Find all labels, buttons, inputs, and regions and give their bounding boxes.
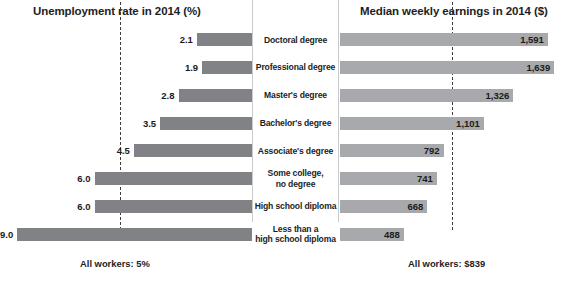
category-row: Master's degree xyxy=(253,82,338,110)
unemployment-bar-row: 4.5 xyxy=(0,137,253,165)
earnings-bar-row: 792 xyxy=(338,137,569,165)
unemployment-bar-row: 9.0 xyxy=(0,220,253,248)
category-label: Less than a high school diploma xyxy=(255,224,336,245)
chart-title-earnings: Median weekly earnings in 2014 ($) xyxy=(360,5,548,17)
unemployment-value-label: 3.5 xyxy=(143,118,156,129)
unemployment-value-label: 9.0 xyxy=(0,229,13,240)
category-label: Associate's degree xyxy=(258,146,333,157)
earnings-value-label: 741 xyxy=(417,173,437,184)
earnings-unemployment-chart: Unemployment rate in 2014 (%) Median wee… xyxy=(0,0,569,281)
category-row: Associate's degree xyxy=(253,137,338,165)
unemployment-bar xyxy=(134,144,252,157)
category-row: Professional degree xyxy=(253,54,338,82)
earnings-value-label: 488 xyxy=(384,229,404,240)
earnings-bar-row: 1,639 xyxy=(338,54,569,82)
footer-all-workers-earnings: All workers: $839 xyxy=(408,258,485,269)
earnings-bar: 668 xyxy=(340,200,427,213)
earnings-value-label: 1,591 xyxy=(520,34,548,45)
unemployment-bar xyxy=(95,200,253,213)
earnings-bar-row: 741 xyxy=(338,165,569,193)
unemployment-bar-row: 1.9 xyxy=(0,54,253,82)
unemployment-bar-rows: 2.11.92.83.54.56.06.09.0 xyxy=(0,26,253,248)
category-label: Bachelor's degree xyxy=(260,118,332,129)
earnings-bar: 488 xyxy=(340,228,404,241)
category-label: Master's degree xyxy=(264,90,327,101)
category-row: Less than a high school diploma xyxy=(253,220,338,248)
unemployment-bar xyxy=(202,61,252,74)
earnings-bar: 792 xyxy=(340,144,444,157)
category-label-column: Doctoral degreeProfessional degreeMaster… xyxy=(253,26,338,248)
category-row: Bachelor's degree xyxy=(253,109,338,137)
earnings-bar: 741 xyxy=(340,172,437,185)
earnings-bar-row: 1,591 xyxy=(338,26,569,54)
category-row: Doctoral degree xyxy=(253,26,338,54)
earnings-plot-area: 1,5911,6391,3261,101792741668488 xyxy=(338,26,569,248)
unemployment-value-label: 6.0 xyxy=(77,173,90,184)
category-label: Professional degree xyxy=(256,62,335,73)
earnings-bar-row: 1,326 xyxy=(338,82,569,110)
unemployment-value-label: 6.0 xyxy=(77,201,90,212)
unemployment-bar xyxy=(179,89,253,102)
earnings-value-label: 1,326 xyxy=(486,90,514,101)
earnings-bar: 1,101 xyxy=(340,117,484,130)
earnings-bar: 1,639 xyxy=(340,61,554,74)
unemployment-plot-area: 2.11.92.83.54.56.06.09.0 xyxy=(0,26,253,248)
unemployment-bar xyxy=(197,33,252,46)
earnings-value-label: 1,639 xyxy=(526,62,554,73)
category-label: High school diploma xyxy=(255,201,337,212)
earnings-value-label: 1,101 xyxy=(456,118,484,129)
unemployment-value-label: 2.8 xyxy=(161,90,174,101)
category-row: High school diploma xyxy=(253,193,338,221)
category-labels: Doctoral degreeProfessional degreeMaster… xyxy=(253,26,338,248)
category-row: Some college, no degree xyxy=(253,165,338,193)
unemployment-bar xyxy=(95,172,253,185)
unemployment-bar-row: 2.8 xyxy=(0,82,253,110)
footer-all-workers-unemployment: All workers: 5% xyxy=(80,258,150,269)
unemployment-value-label: 1.9 xyxy=(185,62,198,73)
chart-title-unemployment: Unemployment rate in 2014 (%) xyxy=(33,5,201,17)
earnings-value-label: 792 xyxy=(424,145,444,156)
unemployment-bar-row: 2.1 xyxy=(0,26,253,54)
category-label: Some college, no degree xyxy=(268,168,324,189)
earnings-value-label: 668 xyxy=(407,201,427,212)
category-label: Doctoral degree xyxy=(264,35,327,46)
earnings-bar: 1,326 xyxy=(340,89,513,102)
unemployment-bar xyxy=(160,117,252,130)
unemployment-bar-row: 3.5 xyxy=(0,109,253,137)
unemployment-bar-row: 6.0 xyxy=(0,193,253,221)
earnings-bar-rows: 1,5911,6391,3261,101792741668488 xyxy=(338,26,569,248)
earnings-bar-row: 488 xyxy=(338,220,569,248)
earnings-bar-row: 668 xyxy=(338,193,569,221)
unemployment-bar xyxy=(17,228,252,241)
unemployment-bar-row: 6.0 xyxy=(0,165,253,193)
earnings-bar: 1,591 xyxy=(340,33,548,46)
unemployment-value-label: 2.1 xyxy=(180,34,193,45)
unemployment-value-label: 4.5 xyxy=(117,145,130,156)
earnings-bar-row: 1,101 xyxy=(338,109,569,137)
